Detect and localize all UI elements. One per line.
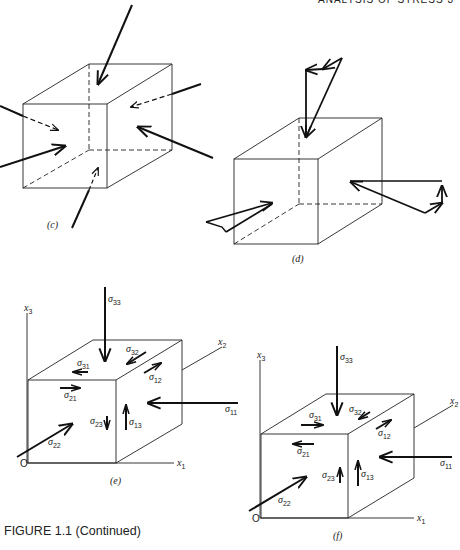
stress-arrows-f [249,346,452,511]
panel-d: (d) [206,58,442,265]
force-vector-decomposition-d [206,58,442,232]
panel-c: (c) [0,5,213,231]
sigma-22-label: σ22 [48,436,61,449]
sigma-13-label: σ13 [361,468,374,481]
panel-f-label: (f) [333,530,343,542]
sigma-31-label: σ31 [309,409,322,422]
figure-1-1: (c) ( [0,0,460,550]
panel-f: x3 x2 x1 O σ33 σ31 σ32 σ12 σ21 σ11 σ23 σ… [249,346,458,542]
sigma-33-label: σ33 [340,351,353,364]
x3-axis-label: x3 [23,302,32,315]
sigma-32-label: σ32 [349,403,362,416]
sigma-21-label: σ21 [297,445,310,458]
sigma-23-label: σ23 [322,469,335,482]
axes-f [260,360,453,518]
sigma-12-label: σ12 [149,371,162,384]
sigma-32-label: σ32 [126,343,139,356]
origin-label: O [20,458,28,469]
sigma-23-label: σ23 [90,415,103,428]
stress-arrows-e [17,287,238,457]
sigma-11-label: σ11 [225,403,237,416]
x1-axis-label: x1 [416,512,425,525]
sigma-12-label: σ12 [378,427,391,440]
panel-d-label: (d) [292,253,304,265]
force-arrows-c [0,5,213,228]
panel-e: x3 x2 x1 O σ33 σ31 σ32 σ12 σ21 σ11 σ23 σ… [17,287,238,487]
sigma-31-label: σ31 [77,357,90,370]
figure-caption: FIGURE 1.1 (Continued) [4,524,141,538]
sigma-22-label: σ22 [278,494,291,507]
panel-c-label: (c) [47,219,59,231]
sigma-33-label: σ33 [108,293,121,306]
sigma-13-label: σ13 [129,416,142,429]
sigma-11-label: σ11 [440,457,452,470]
x2-axis-label: x2 [217,336,226,349]
panel-e-label: (e) [110,475,122,487]
x1-axis-label: x1 [176,457,185,470]
origin-label: O [252,513,260,524]
x3-axis-label: x3 [256,349,265,362]
axes-e [27,313,222,463]
sigma-21-label: σ21 [64,389,77,402]
